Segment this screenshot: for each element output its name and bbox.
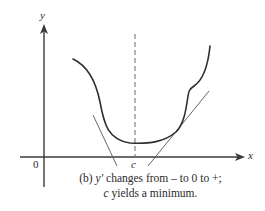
caption-line-1-text: changes from – to 0 to +; [103, 172, 222, 184]
critical-point-label: c [131, 158, 136, 170]
caption-line-1: (b) y′ changes from – to 0 to +; [0, 172, 265, 184]
caption-part-label: (b) [79, 172, 95, 184]
caption-line-2-text: yields a minimum. [109, 187, 198, 199]
y-axis-label: y [40, 9, 45, 21]
caption-derivative-var: y′ [96, 172, 104, 184]
caption-line-2: c yields a minimum. [0, 187, 265, 199]
function-curve [73, 46, 210, 143]
x-axis-label: x [248, 149, 253, 161]
origin-label: 0 [33, 158, 39, 170]
